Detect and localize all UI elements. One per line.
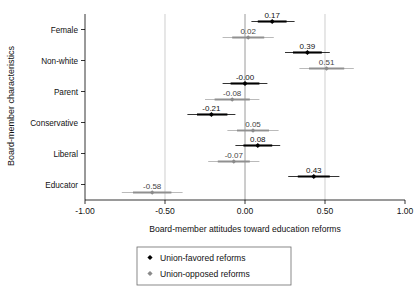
legend-item[interactable]: Union-favored reforms — [147, 253, 245, 263]
x-tick-label: -0.50 — [155, 206, 175, 216]
legend-label: Union-favored reforms — [160, 253, 246, 263]
legend: Union-favored reformsUnion-opposed refor… — [137, 247, 291, 285]
y-category-label: Liberal — [53, 150, 78, 159]
legend-item[interactable]: Union-opposed reforms — [147, 269, 249, 279]
value-label: 0.05 — [245, 120, 261, 129]
value-label: 0.51 — [319, 58, 335, 67]
y-category-label: Female — [51, 26, 79, 35]
chart-canvas: -1.00-0.500.000.501.00 FemaleNon-whitePa… — [0, 0, 418, 293]
value-label: 0.39 — [300, 42, 316, 51]
x-tick-label: 0.50 — [317, 206, 334, 216]
value-label: -0.58 — [143, 182, 162, 191]
value-label: 0.08 — [250, 135, 266, 144]
value-label: -0.08 — [223, 89, 242, 98]
y-category-label: Educator — [45, 181, 78, 190]
x-tick-label: -1.00 — [75, 206, 95, 216]
y-category-label: Parent — [54, 88, 79, 97]
x-tick-label: 1.00 — [397, 206, 414, 216]
value-label: -0.21 — [202, 104, 221, 113]
y-category-label: Conservative — [30, 119, 78, 128]
y-axis-title: Board-member characteristics — [6, 45, 16, 166]
value-label: 0.43 — [306, 166, 322, 175]
value-label: 0.02 — [240, 27, 256, 36]
x-tick-label: 0.00 — [237, 206, 254, 216]
value-label: -0.00 — [236, 73, 255, 82]
x-axis-title: Board-member attitudes toward education … — [149, 224, 341, 234]
y-category-label: Non-white — [41, 57, 78, 66]
value-label: 0.17 — [264, 11, 280, 20]
value-label: -0.07 — [225, 151, 244, 160]
coefficient-plot: -1.00-0.500.000.501.00 FemaleNon-whitePa… — [0, 0, 418, 293]
legend-label: Union-opposed reforms — [160, 269, 250, 279]
